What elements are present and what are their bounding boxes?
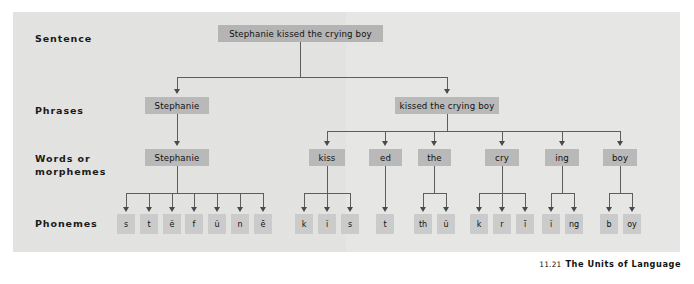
connector-stephanie-stem <box>177 166 178 193</box>
arrow-to-phoneme-13 <box>443 207 449 212</box>
connector-the-bar <box>423 193 446 194</box>
arrow-to-word-kiss <box>324 141 330 146</box>
node-word-ing: ing <box>545 149 579 166</box>
connector-phoneme-drop-12 <box>423 193 424 208</box>
connector-phoneme-drop-5 <box>217 193 218 208</box>
arrow-to-phoneme-12 <box>420 207 426 212</box>
arrow-to-phoneme-6 <box>237 207 243 212</box>
connector-phoneme-drop-8 <box>304 193 305 208</box>
row-label-words-or-morphemes: Words or morphemes <box>35 152 106 178</box>
connector-phrase2-stem <box>447 114 448 131</box>
connector-phrase1-stem <box>177 114 178 142</box>
node-phoneme-5: ŭ <box>208 214 226 234</box>
figure-caption: 11.21The Units of Language <box>539 259 681 269</box>
node-phoneme-14: k <box>470 214 488 234</box>
arrow-to-phoneme-9 <box>324 207 330 212</box>
connector-phoneme-drop-1 <box>126 193 127 208</box>
arrow-to-phoneme-15 <box>499 207 505 212</box>
node-word-ed: ed <box>369 149 402 166</box>
node-phoneme-10: s <box>341 214 359 234</box>
connector-phoneme-drop-16 <box>525 193 526 208</box>
connector-boy-bar <box>609 193 632 194</box>
connector-phoneme-drop-18 <box>574 193 575 208</box>
node-phoneme-2: t <box>140 214 158 234</box>
node-phoneme-15: r <box>493 214 511 234</box>
row-label-phonemes: Phonemes <box>35 217 98 230</box>
figure-number: 11.21 <box>539 260 561 269</box>
connector-phoneme-drop-19 <box>609 193 610 208</box>
node-phoneme-18: ng <box>565 214 583 234</box>
connector-kiss-stem <box>327 166 328 193</box>
connector-cry-stem <box>502 166 503 193</box>
connector-phoneme-drop-17 <box>551 193 552 208</box>
figure-caption-text: The Units of Language <box>565 259 681 269</box>
connector-phoneme-drop-20 <box>632 193 633 208</box>
arrow-to-word-the <box>431 141 437 146</box>
connector-phrase2-bar <box>327 131 620 132</box>
arrow-to-phoneme-8 <box>301 207 307 212</box>
connector-phoneme-drop-2 <box>149 193 150 208</box>
connector-sentence-bar <box>177 77 447 78</box>
node-phoneme-16: ī <box>516 214 534 234</box>
node-phrase-kissed-the-crying-boy: kissed the crying boy <box>395 97 499 114</box>
arrow-to-phoneme-3 <box>169 207 175 212</box>
connector-phoneme-drop-14 <box>479 193 480 208</box>
connector-phoneme-drop-4 <box>194 193 195 208</box>
connector-phoneme-drop-15 <box>502 193 503 208</box>
arrow-to-phoneme-1 <box>123 207 129 212</box>
node-phrase-stephanie: Stephanie <box>145 97 209 114</box>
node-phoneme-12: th <box>414 214 432 234</box>
row-label-sentence: Sentence <box>35 32 92 45</box>
node-word-stephanie: Stephanie <box>145 149 209 166</box>
arrow-to-phoneme-18 <box>571 207 577 212</box>
node-phoneme-11: t <box>376 214 394 234</box>
connector-phoneme-drop-3 <box>172 193 173 208</box>
node-word-cry: cry <box>485 149 519 166</box>
arrow-to-word-stephanie <box>174 141 180 146</box>
arrow-to-word-cry <box>499 141 505 146</box>
connector-ing-stem <box>562 166 563 193</box>
connector-phoneme-drop-10 <box>350 193 351 208</box>
arrow-to-phoneme-4 <box>191 207 197 212</box>
connector-ing-bar <box>551 193 574 194</box>
arrow-to-phoneme-5 <box>214 207 220 212</box>
node-word-boy: boy <box>603 149 637 166</box>
node-word-kiss: kiss <box>309 149 345 166</box>
figure-units-of-language: Sentence Phrases Words or morphemes Phon… <box>0 0 694 284</box>
arrow-to-phoneme-11 <box>382 207 388 212</box>
connector-the-stem <box>434 166 435 193</box>
arrow-to-phoneme-20 <box>629 207 635 212</box>
node-phoneme-1: s <box>117 214 135 234</box>
node-phoneme-9: ĭ <box>318 214 336 234</box>
connector-ed-stem <box>385 166 386 208</box>
row-label-phrases: Phrases <box>35 104 84 117</box>
node-phoneme-8: k <box>295 214 313 234</box>
arrow-to-phrase-2 <box>444 89 450 94</box>
arrow-to-word-boy <box>617 141 623 146</box>
node-phoneme-3: ĕ <box>163 214 181 234</box>
arrow-to-phoneme-7 <box>260 207 266 212</box>
connector-phoneme-drop-7 <box>263 193 264 208</box>
connector-phoneme-drop-6 <box>240 193 241 208</box>
connector-sentence-stem <box>300 42 301 77</box>
node-phoneme-4: f <box>185 214 203 234</box>
arrow-to-phrase-1 <box>174 89 180 94</box>
arrow-to-word-ed <box>382 141 388 146</box>
arrow-to-phoneme-19 <box>606 207 612 212</box>
node-phoneme-6: n <box>231 214 249 234</box>
node-phoneme-20: oy <box>623 214 641 234</box>
connector-phoneme-drop-9 <box>327 193 328 208</box>
node-phoneme-19: b <box>600 214 618 234</box>
connector-phoneme-drop-13 <box>446 193 447 208</box>
node-phoneme-13: ŭ <box>437 214 455 234</box>
arrow-to-phoneme-14 <box>476 207 482 212</box>
arrow-to-phoneme-2 <box>146 207 152 212</box>
arrow-to-phoneme-17 <box>548 207 554 212</box>
node-phoneme-7: ē <box>254 214 272 234</box>
arrow-to-phoneme-10 <box>347 207 353 212</box>
arrow-to-phoneme-16 <box>522 207 528 212</box>
node-word-the: the <box>418 149 451 166</box>
node-sentence: Stephanie kissed the crying boy <box>218 25 383 42</box>
node-phoneme-17: ĭ <box>542 214 560 234</box>
connector-boy-stem <box>620 166 621 193</box>
